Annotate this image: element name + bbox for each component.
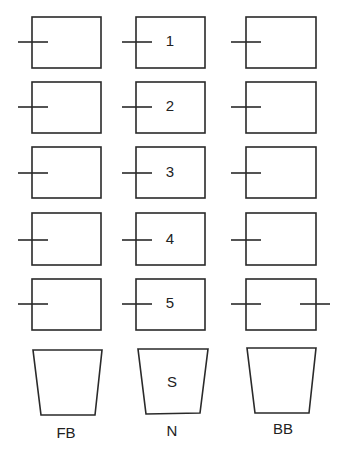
row-number-label: 3: [166, 163, 174, 180]
box-outline: [32, 213, 101, 265]
box-fb-3: [18, 147, 101, 198]
row-number-label: 4: [166, 230, 174, 247]
box-outline: [246, 213, 316, 265]
magnet-diagram: 12345 FBSNBB: [0, 0, 343, 454]
trapezoid-outline: [33, 350, 102, 415]
box-grid: 12345: [18, 17, 330, 330]
box-n-4: 4: [122, 213, 205, 265]
row-number-label: 2: [166, 97, 174, 114]
box-fb-1: [18, 17, 101, 68]
trapezoid-row: FBSNBB: [33, 348, 316, 441]
box-bb-3: [231, 147, 316, 198]
row-number-label: 5: [166, 294, 174, 311]
box-n-3: 3: [122, 147, 205, 198]
column-label: BB: [273, 420, 293, 437]
box-n-2: 2: [122, 82, 205, 133]
row-number-label: 1: [166, 32, 174, 49]
box-bb-2: [231, 82, 316, 133]
trapezoid-n: SN: [138, 349, 208, 439]
box-fb-2: [18, 82, 101, 133]
trapezoid-outline: [247, 348, 316, 413]
box-fb-4: [18, 213, 101, 265]
column-label: N: [167, 422, 178, 439]
trapezoid-fb: FB: [33, 350, 102, 441]
box-bb-1: [231, 17, 316, 68]
box-n-1: 1: [122, 17, 205, 68]
trapezoid-inner-label: S: [167, 373, 177, 390]
box-n-5: 5: [122, 279, 205, 330]
column-label: FB: [56, 424, 75, 441]
box-fb-5: [18, 279, 101, 330]
box-bb-4: [231, 213, 316, 265]
trapezoid-bb: BB: [247, 348, 316, 437]
